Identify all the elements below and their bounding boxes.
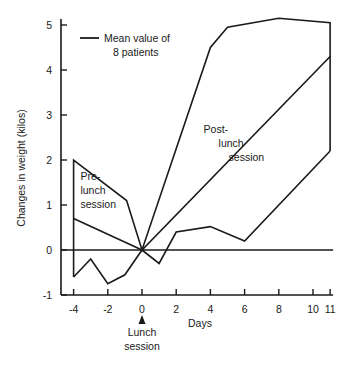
annotation-lunch-text: Lunch [128,326,157,338]
y-tick-label: 2 [46,154,52,166]
annotation-post-text: session [229,151,265,163]
x-tick-label: 11 [325,303,336,315]
y-tick-label: 3 [46,109,52,121]
y-axis-label: Changes in weight (kilos) [15,109,27,226]
y-tick-label: 1 [46,199,52,211]
axes [61,19,333,295]
legend-text-line1: Mean value of [104,32,170,44]
x-tick-label: 6 [242,303,248,315]
x-tick-label: 2 [173,303,179,315]
legend: Mean value of 8 patients [80,32,170,58]
x-tick-label: 4 [207,303,213,315]
x-tick-label: 0 [139,303,145,315]
x-axis-label: Days [188,317,212,329]
annotation-pre-text: lunch [80,184,105,196]
y-tick-label: 5 [46,19,52,31]
series-line-lower-envelope [74,151,331,284]
x-tick-label: -2 [103,303,112,315]
ticks: -1012345-4-2024681011 [43,19,336,315]
x-tick-label: -4 [69,303,78,315]
series-line-mean [74,57,331,251]
annotation-lunch-text: session [124,340,160,352]
annotation-post-text: lunch [219,137,244,149]
annotation-pre-text: session [80,198,116,210]
annotation-pre-text: Pre- [80,170,100,182]
x-tick-label: 10 [307,303,319,315]
series-group [74,18,331,284]
lunch-arrow-icon [139,315,146,324]
y-tick-label: 4 [46,64,52,76]
annotation-post-text: Post- [204,123,229,135]
y-tick-label: 0 [46,244,52,256]
y-tick-label: -1 [43,289,52,301]
x-tick-label: 8 [276,303,282,315]
weight-change-chart: -1012345-4-2024681011 Mean value of 8 pa… [0,0,354,373]
legend-text-line2: 8 patients [113,46,159,58]
